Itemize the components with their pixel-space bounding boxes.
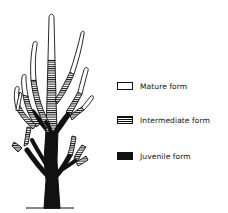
legend-label-juvenile: Juvenile form	[140, 152, 191, 161]
legend-label-mature: Mature form	[140, 82, 187, 91]
juvenile-swatch-icon	[117, 152, 133, 160]
legend-item-intermediate: Intermediate form	[117, 114, 210, 126]
mature-swatch-icon	[117, 82, 133, 90]
tree-diagram	[0, 0, 228, 213]
legend-item-juvenile: Juvenile form	[117, 150, 191, 162]
legend-item-mature: Mature form	[117, 80, 187, 92]
legend-label-intermediate: Intermediate form	[140, 116, 210, 125]
intermediate-swatch-icon	[117, 116, 133, 124]
